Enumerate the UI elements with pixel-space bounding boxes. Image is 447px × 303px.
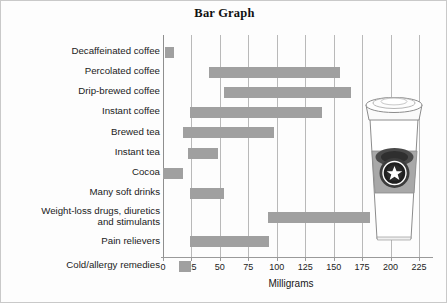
category-label: Many soft drinks	[8, 187, 160, 198]
coffee-cup-illustration	[356, 89, 432, 249]
bar	[190, 236, 269, 247]
category-label: Instant tea	[8, 147, 160, 158]
x-axis-line	[161, 257, 433, 258]
bar	[268, 212, 370, 223]
x-tick-mark	[334, 257, 335, 261]
bar	[190, 107, 322, 118]
x-tick-mark	[220, 257, 221, 261]
bar	[183, 127, 274, 138]
x-tick-mark	[191, 257, 192, 261]
category-labels: Decaffeinated coffeePercolated coffeeDri…	[5, 1, 160, 261]
bar	[179, 261, 192, 272]
category-label: Weight-loss drugs, diuretics and stimula…	[8, 206, 160, 227]
x-tick-mark	[248, 257, 249, 261]
category-label: Pain relievers	[8, 236, 160, 247]
bar	[163, 168, 183, 179]
category-label: Instant coffee	[8, 106, 160, 117]
x-tick-mark	[391, 257, 392, 261]
x-tick-mark	[362, 257, 363, 261]
x-tick-mark	[419, 257, 420, 261]
category-label: Cold/allergy remedies	[8, 260, 160, 271]
bar	[165, 47, 174, 58]
y-axis-line	[163, 35, 164, 257]
category-label: Decaffeinated coffee	[8, 46, 160, 57]
bar	[224, 87, 350, 98]
category-label: Brewed tea	[8, 127, 160, 138]
chart-page: Bar Graph Decaffeinated coffeePercolated…	[0, 0, 447, 303]
bar	[190, 188, 224, 199]
x-tick-mark	[163, 257, 164, 261]
x-tick-mark	[305, 257, 306, 261]
category-label: Percolated coffee	[8, 66, 160, 77]
x-tick-label: 225	[399, 262, 439, 272]
bar	[188, 148, 218, 159]
bar	[209, 67, 341, 78]
x-axis-title: Milligrams	[163, 278, 419, 289]
category-label: Drip-brewed coffee	[8, 86, 160, 97]
gridline	[191, 35, 192, 257]
category-label: Cocoa	[8, 167, 160, 178]
x-tick-mark	[277, 257, 278, 261]
